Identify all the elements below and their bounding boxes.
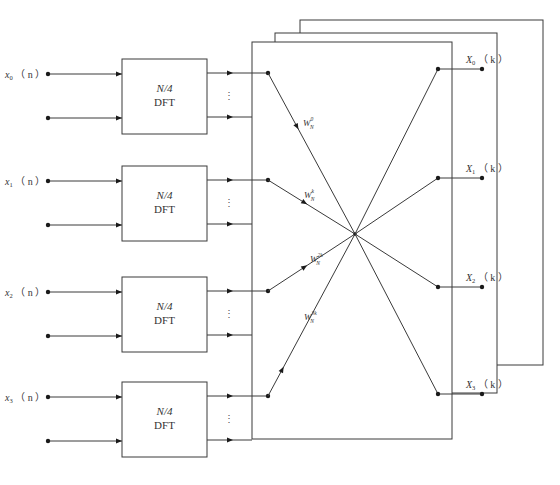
- ellipsis-icon: ⋮: [224, 308, 234, 319]
- arrow-icon: [227, 289, 233, 294]
- block-label-dft: DFT: [154, 314, 175, 326]
- block-label-n4: N/4: [156, 82, 173, 94]
- block-label-n4: N/4: [156, 300, 173, 312]
- output-node: [480, 67, 484, 71]
- output-arg: （ k ）: [475, 272, 508, 283]
- input-label-x2: x2 （ n ）: [4, 287, 45, 299]
- input-node: [46, 179, 50, 183]
- ellipsis-icon: ⋮: [224, 413, 234, 424]
- arrow-icon: [116, 72, 122, 77]
- arrow-icon: [116, 290, 122, 295]
- block-label-n4: N/4: [156, 189, 173, 201]
- twiddle-sup: 2k: [318, 252, 324, 258]
- twiddle-sub: N: [309, 318, 314, 324]
- output-node: [480, 392, 484, 396]
- output-tap-node: [436, 176, 440, 180]
- input-arg: （ n ）: [13, 69, 46, 80]
- input-node: [46, 439, 50, 443]
- output-label-X0: X0 （ k ）: [465, 54, 508, 66]
- arrow-icon: [227, 178, 233, 183]
- arrow-icon: [116, 395, 122, 400]
- input-node: [46, 334, 50, 338]
- output-tap-node: [436, 392, 440, 396]
- block-label-dft: DFT: [154, 203, 175, 215]
- input-label-x1: x1 （ n ）: [4, 176, 45, 188]
- block-label-dft: DFT: [154, 96, 175, 108]
- output-tap-node: [436, 67, 440, 71]
- output-arg: （ k ）: [475, 54, 508, 65]
- block-label-n4: N/4: [156, 405, 173, 417]
- output-arg: （ k ）: [475, 163, 508, 174]
- arrow-icon: [116, 223, 122, 228]
- arrow-icon: [227, 115, 233, 120]
- block-label-dft: DFT: [154, 419, 175, 431]
- output-node: [480, 176, 484, 180]
- twiddle-sub: N: [310, 196, 315, 202]
- output-label-X2: X2 （ k ）: [465, 272, 508, 284]
- input-arg: （ n ）: [13, 176, 46, 187]
- fft-diagram: x0 （ n ）N/4DFT⋮x1 （ n ）N/4DFT⋮x2 （ n ）N/…: [0, 0, 560, 485]
- input-arg: （ n ）: [13, 287, 46, 298]
- arrow-icon: [227, 438, 233, 443]
- arrow-icon: [116, 116, 122, 121]
- arrow-icon: [116, 179, 122, 184]
- input-node: [46, 72, 50, 76]
- arrow-icon: [116, 439, 122, 444]
- arrow-icon: [227, 71, 233, 76]
- output-arg: （ k ）: [475, 379, 508, 390]
- arrow-icon: [116, 334, 122, 339]
- input-label-x3: x3 （ n ）: [4, 392, 45, 404]
- arrow-icon: [227, 394, 233, 399]
- ellipsis-icon: ⋮: [224, 90, 234, 101]
- input-label-x0: x0 （ n ）: [4, 69, 45, 81]
- input-node: [46, 395, 50, 399]
- input-node: [46, 116, 50, 120]
- twiddle-sub: N: [315, 260, 320, 266]
- arrow-icon: [227, 333, 233, 338]
- twiddle-sup: 3k: [311, 310, 318, 316]
- twiddle-sub: N: [309, 124, 314, 130]
- input-node: [46, 290, 50, 294]
- output-node: [480, 285, 484, 289]
- output-label-X3: X3 （ k ）: [465, 379, 508, 391]
- ellipsis-icon: ⋮: [224, 197, 234, 208]
- arrow-icon: [227, 222, 233, 227]
- input-arg: （ n ）: [13, 392, 46, 403]
- twiddle-sup: 0: [311, 116, 314, 122]
- output-tap-node: [436, 285, 440, 289]
- input-node: [46, 223, 50, 227]
- output-label-X1: X1 （ k ）: [465, 163, 508, 175]
